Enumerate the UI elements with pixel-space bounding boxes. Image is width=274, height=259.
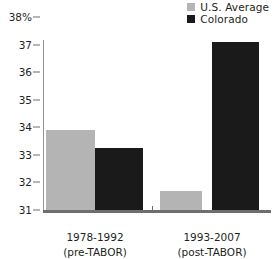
x-axis-label-period: 1993-2007 [150,230,274,245]
bar-colorado-group-2 [212,42,259,210]
bar-u-s-average-group-2 [160,191,202,210]
y-axis-tick-mark [33,182,40,183]
x-axis-label-qualifier: (pre-TABOR) [30,245,160,259]
bar-u-s-average-group-1 [46,130,95,210]
y-axis-tick-mark [33,72,40,73]
y-axis-tick-mark [33,127,40,128]
y-axis-tick-mark [33,210,40,211]
y-axis-tick-label: 33 [0,150,32,161]
x-axis-label-group-1: 1978-1992(pre-TABOR) [30,230,160,259]
x-axis-label-qualifier: (post-TABOR) [150,245,274,259]
y-axis-tick-mark [33,99,40,100]
x-axis-baseline [43,210,271,213]
y-axis-tick-label: 36 [0,67,32,78]
y-axis-tick-label: 37 [0,39,32,50]
x-axis-label-group-2: 1993-2007(post-TABOR) [150,230,274,259]
y-axis-tick-label: 38% [0,12,32,23]
bar-chart: U.S. Average Colorado 3132333435363738% … [0,0,274,259]
group-separator-tick [152,206,153,210]
x-axis-label-period: 1978-1992 [30,230,160,245]
y-axis-tick-label: 35 [0,94,32,105]
y-axis-tick-mark [33,154,40,155]
y-axis-tick-mark [33,44,40,45]
x-axis-labels: 1978-1992(pre-TABOR)1993-2007(post-TABOR… [0,222,274,259]
y-axis-tick-label: 32 [0,177,32,188]
plot-area: 3132333435363738% [0,0,274,220]
y-axis-tick-mark [33,17,40,18]
bar-colorado-group-1 [95,148,143,210]
y-axis-tick-label: 34 [0,122,32,133]
y-axis-tick-label: 31 [0,205,32,216]
y-axis-line [43,40,44,210]
